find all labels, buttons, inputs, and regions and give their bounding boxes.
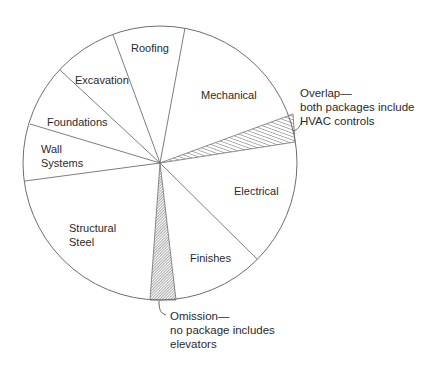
label-foundations: Foundations — [47, 116, 108, 128]
omission-callout: Omission— no package includes elevators — [170, 310, 278, 350]
scope-pie-diagram: Roofing Mechanical Electrical Finishes S… — [0, 0, 426, 367]
omission-leader-line — [159, 301, 166, 315]
label-finishes: Finishes — [190, 252, 231, 264]
label-excavation: Excavation — [75, 74, 129, 86]
label-mechanical: Mechanical — [201, 89, 257, 101]
overlap-callout: Overlap— both packages include HVAC cont… — [300, 87, 418, 127]
label-electrical: Electrical — [234, 185, 279, 197]
label-roofing: Roofing — [131, 42, 169, 54]
